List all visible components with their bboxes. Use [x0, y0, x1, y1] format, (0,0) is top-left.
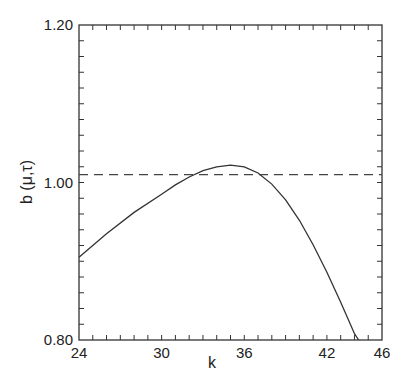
- y-tick-label: 1.00: [44, 174, 73, 191]
- y-tick-label: 0.80: [44, 331, 73, 348]
- chart: 2430364246 0.801.001.20 k b (μ,τ): [0, 0, 411, 382]
- y-tick-label: 1.20: [44, 16, 73, 33]
- x-tick-label: 46: [374, 344, 391, 361]
- x-tick-labels: 2430364246: [71, 344, 391, 361]
- y-tick-labels: 0.801.001.20: [44, 16, 73, 348]
- x-axis-label: k: [208, 354, 217, 371]
- x-tick-label: 42: [319, 344, 336, 361]
- x-tick-label: 30: [153, 344, 170, 361]
- x-tick-label: 36: [236, 344, 253, 361]
- data-curve: [79, 165, 359, 340]
- y-axis-label: b (μ,τ): [18, 160, 35, 204]
- x-tick-label: 24: [71, 344, 88, 361]
